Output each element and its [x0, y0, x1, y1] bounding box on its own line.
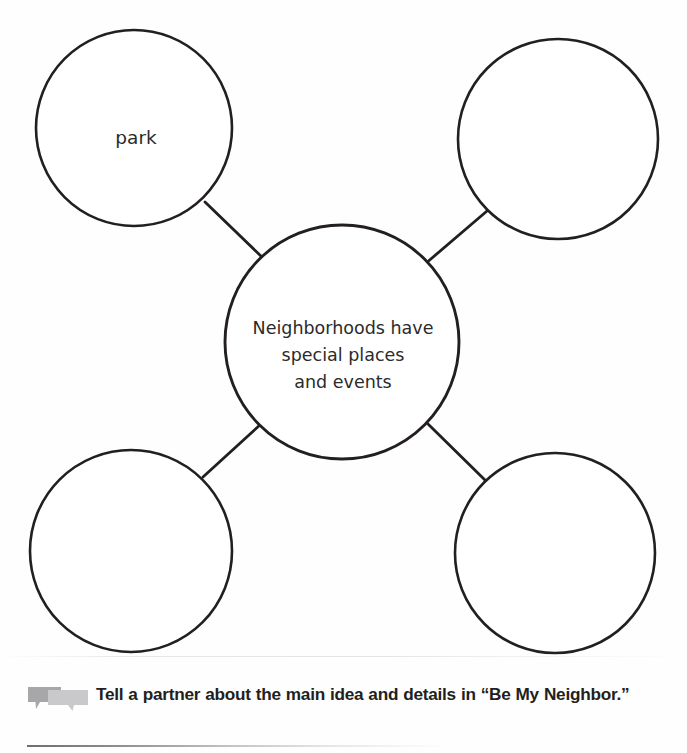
center-bubble[interactable]	[225, 225, 459, 459]
bubble-map-diagram: park Neighborhoods have special places a…	[0, 0, 687, 670]
speech-bubbles-icon	[28, 686, 90, 712]
divider-top	[0, 656, 687, 657]
connector-bottom-right	[428, 424, 486, 481]
bubble-bottom-right[interactable]	[455, 453, 655, 653]
center-bubble-line-3: and events	[294, 372, 391, 392]
connector-bottom-left	[203, 424, 261, 477]
center-bubble-line-2: special places	[282, 345, 405, 365]
bubble-top-left-label: park	[115, 127, 157, 148]
connector-top-right	[425, 211, 487, 264]
bubble-top-right[interactable]	[458, 39, 658, 239]
speech-bubble-front	[48, 690, 88, 711]
worksheet-page: park Neighborhoods have special places a…	[0, 0, 687, 753]
connector-top-left	[205, 202, 264, 259]
center-bubble-line-1: Neighborhoods have	[253, 318, 434, 338]
divider-bottom	[27, 745, 447, 747]
instruction-text: Tell a partner about the main idea and d…	[96, 682, 656, 707]
bubble-bottom-left[interactable]	[30, 450, 232, 652]
